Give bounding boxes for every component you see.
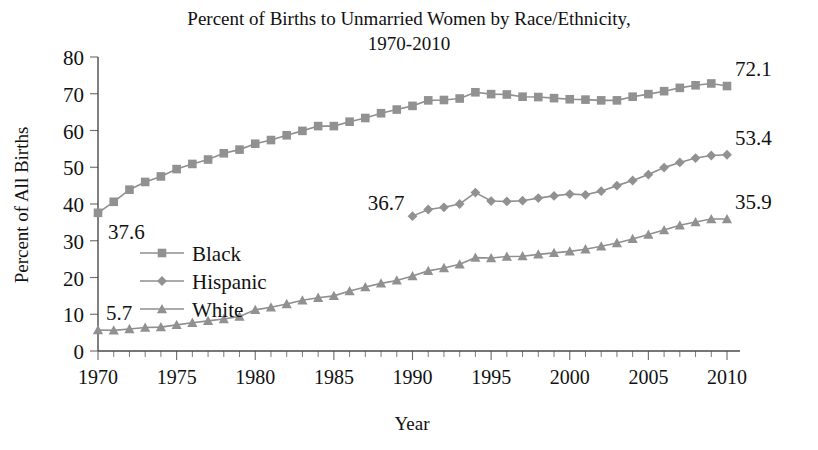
marker-square [660,87,669,96]
marker-square [487,90,496,99]
legend-label-black: Black [192,242,241,266]
data-label-53-4: 53.4 [735,126,772,150]
marker-square [691,81,700,90]
marker-square [408,102,417,111]
y-tick-label: 0 [74,340,85,364]
legend-label-white: White [192,298,243,322]
marker-square [158,249,167,258]
y-tick-label: 20 [63,267,84,291]
marker-square [644,90,653,99]
marker-square [565,95,574,104]
marker-square [676,84,685,93]
y-tick-label: 60 [63,120,84,144]
marker-square [282,131,291,140]
marker-square [314,122,323,131]
data-label-5-7: 5.7 [106,301,132,325]
y-axis-title: Percent of All Births [11,127,32,284]
y-tick-label: 30 [63,230,84,254]
marker-square [503,90,512,99]
marker-square [172,165,181,174]
marker-square [267,136,276,145]
marker-square [109,197,118,206]
marker-square [94,209,103,218]
chart-title-line-2: 1970-2010 [368,33,450,54]
marker-square [377,109,386,118]
y-tick-label: 40 [63,193,84,217]
data-label-37-6: 37.6 [108,220,145,244]
marker-square [550,94,559,103]
x-axis-title: Year [394,413,430,434]
x-tick-label: 1975 [157,366,197,388]
marker-square [220,149,229,158]
marker-square [628,92,637,101]
x-tick-label: 2000 [550,366,590,388]
data-label-72-1: 72.1 [735,57,772,81]
marker-square [345,117,354,126]
marker-square [361,114,370,123]
marker-square [251,139,260,148]
x-tick-label: 1995 [471,366,511,388]
marker-square [424,96,433,105]
marker-square [204,155,213,164]
births-unmarried-women-line-chart: Percent of Births to Unmarried Women by … [0,0,818,450]
chart-title-line-1: Percent of Births to Unmarried Women by … [187,8,630,29]
marker-square [518,92,527,101]
y-tick-label: 50 [63,156,84,180]
marker-square [597,96,606,105]
y-tick-label: 80 [63,46,84,70]
marker-square [392,105,401,114]
x-tick-label: 2005 [628,366,668,388]
x-tick-label: 2010 [707,366,747,388]
marker-square [613,96,622,105]
marker-square [188,160,197,169]
marker-square [707,79,716,88]
x-tick-label: 1990 [393,366,433,388]
marker-square [141,178,150,187]
legend-label-hispanic: Hispanic [192,270,267,294]
marker-square [440,96,449,105]
data-label-35-9: 35.9 [735,190,772,214]
marker-square [471,88,480,97]
data-label-36-7: 36.7 [368,191,405,215]
marker-square [330,122,339,131]
marker-square [125,185,134,194]
marker-square [298,127,307,136]
marker-square [534,93,543,102]
marker-square [157,172,166,181]
x-tick-label: 1970 [78,366,118,388]
x-tick-label: 1985 [314,366,354,388]
marker-square [723,82,732,91]
marker-square [455,94,464,103]
y-tick-label: 10 [63,303,84,327]
chart-container: Percent of Births to Unmarried Women by … [0,0,818,450]
marker-square [235,145,244,154]
x-tick-label: 1980 [235,366,275,388]
y-tick-label: 70 [63,83,84,107]
marker-square [581,95,590,104]
